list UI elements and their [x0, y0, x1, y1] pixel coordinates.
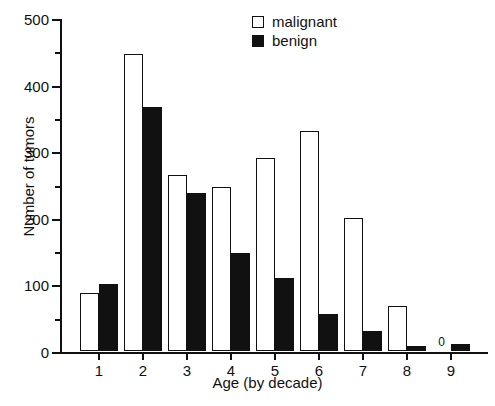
legend-label-malignant: malignant	[272, 14, 337, 29]
legend-item-malignant: malignant	[252, 12, 337, 31]
y-minor-tick-150	[55, 252, 60, 254]
legend-label-benign: benign	[272, 33, 317, 48]
y-tick-label: 100	[24, 278, 49, 293]
bar-malignant-decade-2	[124, 54, 143, 351]
legend-item-benign: benign	[252, 31, 337, 50]
y-axis-line	[60, 19, 62, 353]
bar-malignant-decade-5	[256, 158, 275, 351]
bar-benign-decade-4	[231, 253, 250, 351]
y-tick-label: 500	[24, 12, 49, 27]
x-tick-4	[230, 352, 232, 360]
x-axis-title: Age (by decade)	[55, 374, 480, 391]
y-tick-mark	[52, 152, 60, 154]
y-tick-label: 300	[24, 145, 49, 160]
y-tick-mark	[52, 285, 60, 287]
bar-benign-decade-8	[407, 346, 426, 351]
bar-value-label-malignant-decade-9: 0	[438, 336, 445, 348]
y-tick-mark	[52, 219, 60, 221]
bar-benign-decade-9	[451, 344, 470, 351]
y-tick-label: 200	[24, 211, 49, 226]
bar-benign-decade-2	[143, 107, 162, 351]
legend-swatch-malignant-icon	[252, 16, 264, 28]
bar-benign-decade-1	[99, 284, 118, 351]
bar-benign-decade-6	[319, 314, 338, 351]
bar-chart: Number of tumors 0100200300400500 123456…	[0, 0, 495, 406]
bar-malignant-decade-1	[80, 293, 99, 351]
x-tick-8	[406, 352, 408, 360]
y-minor-tick-50	[55, 319, 60, 321]
y-tick-label: 0	[41, 345, 49, 360]
chart-legend: malignant benign	[252, 12, 337, 50]
x-tick-6	[318, 352, 320, 360]
bar-malignant-decade-7	[344, 218, 363, 351]
y-tick-label: 400	[24, 78, 49, 93]
y-minor-tick-250	[55, 186, 60, 188]
y-minor-tick-350	[55, 119, 60, 121]
bar-benign-decade-7	[363, 331, 382, 351]
y-minor-tick-450	[55, 52, 60, 54]
plot-area: 0100200300400500 123456789 0	[60, 19, 488, 352]
y-axis-title: Number of tumors	[20, 77, 37, 277]
bar-malignant-decade-6	[300, 131, 319, 351]
x-tick-1	[98, 352, 100, 360]
bar-benign-decade-5	[275, 278, 294, 351]
bar-malignant-decade-8	[388, 306, 407, 351]
y-tick-mark	[52, 86, 60, 88]
y-tick-mark	[52, 352, 60, 354]
bar-benign-decade-3	[187, 193, 206, 351]
x-tick-7	[362, 352, 364, 360]
bar-malignant-decade-3	[168, 175, 187, 351]
y-tick-mark	[52, 19, 60, 21]
x-tick-3	[186, 352, 188, 360]
bar-malignant-decade-4	[212, 187, 231, 352]
legend-swatch-benign-icon	[252, 35, 264, 47]
x-tick-5	[274, 352, 276, 360]
x-tick-9	[450, 352, 452, 360]
x-tick-2	[142, 352, 144, 360]
